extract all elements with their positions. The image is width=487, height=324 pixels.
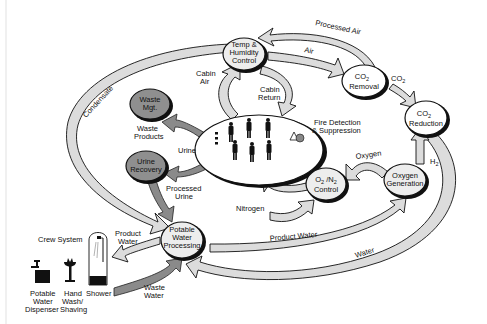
node-waste-mgt: Waste Mgt. xyxy=(130,89,173,122)
node-label: Mgt. xyxy=(143,103,158,112)
flow-label-waste-products: Products xyxy=(134,132,164,141)
crew-system: Crew System Potable Water Dispenser Hand… xyxy=(25,233,112,315)
node-o2-n2-control: O2 /N2 Control xyxy=(306,168,349,203)
flow-label-fire-detection: & Suppression xyxy=(312,126,361,135)
flow-label-nitrogen: Nitrogen xyxy=(236,204,264,213)
flow-label-cabin-air: Air xyxy=(200,77,210,86)
flow-label-h2: H2 xyxy=(430,157,438,167)
node-label: Recovery xyxy=(130,165,162,174)
oxygen-pipe xyxy=(346,163,388,180)
node-label: Control xyxy=(232,56,257,65)
node-label: O2 /N2 xyxy=(315,175,337,185)
node-co2-reduction: CO2 Reduction xyxy=(405,101,450,138)
shower-icon xyxy=(89,233,107,286)
crew-item-label: Shower xyxy=(86,289,112,298)
flow-label-processed-urine: Urine xyxy=(175,192,193,201)
node-label: Control xyxy=(314,185,339,194)
flow-label-product-water: Water xyxy=(118,237,138,246)
flow-label-waste-water: Water xyxy=(144,291,164,300)
flow-label-co2: CO2 xyxy=(391,74,405,84)
node-label: Removal xyxy=(349,82,379,91)
node-urine-recovery: Urine Recovery xyxy=(126,151,169,184)
crew-item-label: Dispenser xyxy=(25,305,59,314)
node-label: Processing xyxy=(163,241,200,250)
node-label: Generation xyxy=(386,179,423,188)
cabin-air-pipe xyxy=(219,63,240,120)
crew-cabin xyxy=(195,115,327,188)
eclss-diagram: Temp & Humidity Control CO2 Removal CO2 … xyxy=(0,0,487,324)
flow-label-oxygen: Oxygen xyxy=(355,148,382,161)
co2-pipe xyxy=(389,84,416,108)
waste-products-pipe xyxy=(162,114,205,139)
node-oxygen-generation: Oxygen Generation xyxy=(384,164,429,199)
node-potable-water-processing: Potable Water Processing xyxy=(161,222,206,261)
water-dispenser-icon xyxy=(31,260,50,283)
flow-label-cabin-return: Return xyxy=(258,93,281,102)
crew-system-title: Crew System xyxy=(38,235,83,244)
flow-label-processed-air: Processed Air xyxy=(315,18,363,37)
flow-label-air: Air xyxy=(304,45,315,56)
node-label: Reduction xyxy=(409,119,443,128)
nitrogen-pipe xyxy=(270,200,314,222)
supplies-icon xyxy=(215,132,218,145)
crew-item-label: Shaving xyxy=(60,305,87,314)
flow-label-urine: Urine xyxy=(178,146,196,155)
node-co2-removal: CO2 Removal xyxy=(342,65,389,100)
hand-wash-icon xyxy=(64,258,76,282)
